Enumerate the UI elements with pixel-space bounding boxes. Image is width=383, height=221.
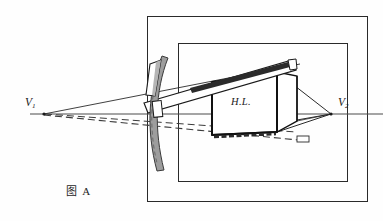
- vp-left-base: V: [25, 96, 32, 108]
- ground-line-end-marker: [297, 136, 309, 142]
- vp-right-base: V: [338, 96, 345, 108]
- vanishing-point-left-label: V1: [25, 97, 36, 110]
- box-right-face: [277, 72, 297, 132]
- vanishing-point-right-label: V2: [338, 97, 349, 110]
- vp-left-subscript: 1: [32, 102, 36, 110]
- vp-right-subscript: 2: [345, 102, 349, 110]
- vanishing-point-right-dot: [329, 112, 332, 115]
- figure-panel: V1 V2 H.L. 图 A: [0, 0, 383, 221]
- ruler-beam-tip: [288, 59, 297, 70]
- station-point-block: [152, 101, 163, 118]
- vanishing-point-left-dot: [42, 112, 45, 115]
- horizon-line-label: H.L.: [231, 97, 251, 108]
- perspective-diagram: [0, 0, 383, 221]
- figure-caption: 图 A: [66, 182, 91, 198]
